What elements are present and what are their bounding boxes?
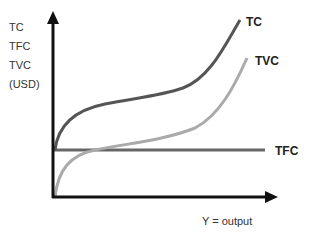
- y-axis-label-tvc: TVC: [9, 59, 31, 72]
- tvc-label: TVC: [255, 54, 279, 68]
- tvc-curve: [55, 58, 247, 197]
- tc-curve: [55, 20, 240, 150]
- y-axis-arrow-icon: [47, 11, 59, 24]
- cost-curves-chart: [0, 0, 313, 238]
- y-axis-label-tc: TC: [9, 21, 24, 34]
- tc-label: TC: [246, 15, 262, 29]
- y-axis-label-tfc: TFC: [9, 40, 30, 53]
- x-axis-arrow-icon: [265, 191, 278, 203]
- x-axis-label: Y = output: [202, 215, 252, 227]
- tfc-label: TFC: [275, 144, 298, 158]
- y-axis-label-usd: (USD): [9, 78, 40, 91]
